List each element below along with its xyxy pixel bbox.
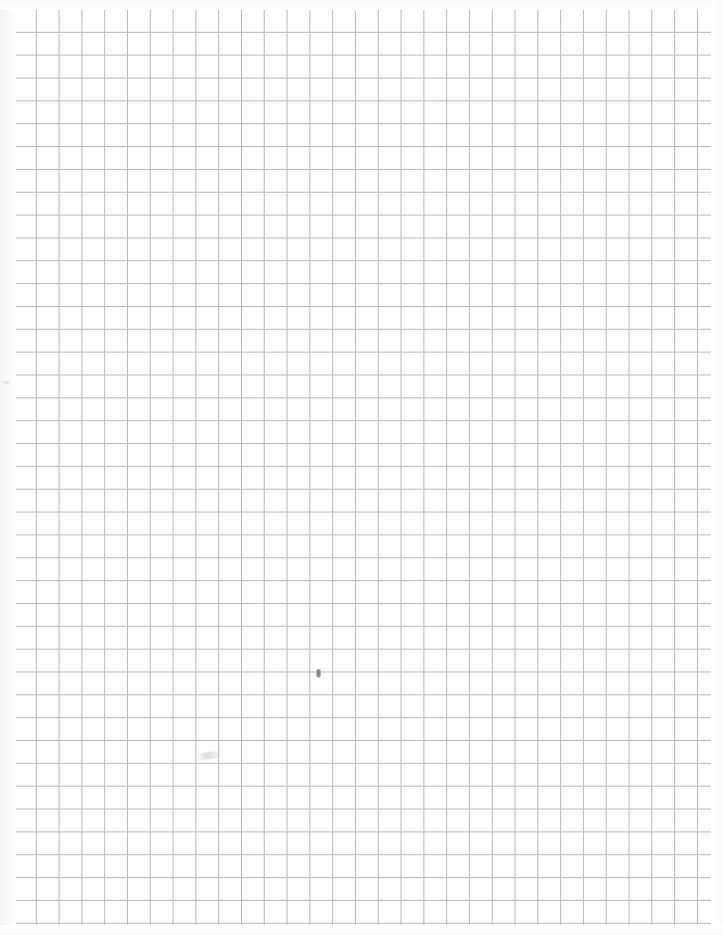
square-ruled-grid bbox=[13, 9, 713, 926]
grid-border-right bbox=[713, 9, 714, 927]
grid-border-top bbox=[13, 9, 714, 10]
grid-border-left bbox=[13, 9, 14, 927]
grid-border-bottom bbox=[13, 926, 714, 927]
graph-paper-page: A scanned sheet of blank square-ruled gr… bbox=[0, 0, 723, 935]
